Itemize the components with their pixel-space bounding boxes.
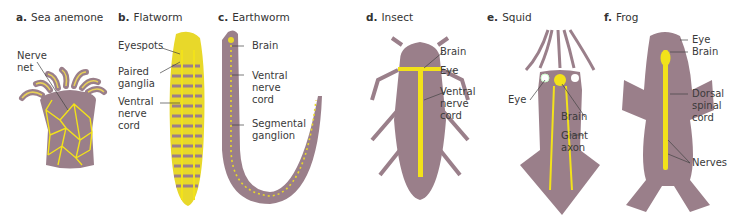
panel-letter: e.	[487, 11, 498, 23]
panel-name: Squid	[502, 11, 532, 23]
panel-name: Flatworm	[134, 11, 183, 23]
panel-letter: d.	[366, 11, 378, 23]
label-nerve-net: Nerve net	[17, 50, 47, 74]
label-nerves: Nerves	[692, 157, 727, 169]
panel-letter: c.	[218, 11, 228, 23]
label-paired-ganglia: Paired ganglia	[118, 66, 155, 90]
label-eye-insect: Eye	[440, 65, 458, 77]
panel-letter: f.	[604, 11, 612, 23]
panel-title-e: e.Squid	[487, 11, 532, 23]
panel-name: Frog	[616, 11, 638, 23]
panel-title-c: c.Earthworm	[218, 11, 290, 23]
label-segmental-ganglion: Segmental ganglion	[252, 118, 306, 142]
label-dorsal-spinal-cord: Dorsal spinal cord	[692, 88, 724, 124]
panel-title-d: d.Insect	[366, 11, 413, 23]
panel-letter: b.	[118, 11, 130, 23]
squid-drawing	[520, 30, 600, 215]
label-giant-axon: Giant axon	[561, 130, 588, 154]
panel-letter: a.	[16, 11, 27, 23]
label-brain-frog: Brain	[692, 46, 718, 58]
panel-title-a: a.Sea anemone	[16, 11, 103, 23]
panel-name: Earthworm	[232, 11, 290, 23]
label-ventral-nerve-cord-earthworm: Ventral nerve cord	[252, 70, 288, 106]
label-brain-squid: Brain	[561, 111, 587, 123]
nervous-systems-illustration	[0, 0, 736, 221]
flatworm-drawing	[170, 32, 205, 206]
label-eye-frog: Eye	[692, 34, 710, 46]
label-eye-squid: Eye	[508, 94, 526, 106]
label-ventral-nerve-cord-insect: Ventral nerve cord	[440, 86, 476, 122]
panel-title-b: b.Flatworm	[118, 11, 182, 23]
label-eyespots: Eyespots	[118, 40, 163, 52]
label-ventral-nerve-cord-flatworm: Ventral nerve cord	[118, 96, 154, 132]
panel-name: Insect	[382, 11, 414, 23]
label-brain-insect: Brain	[440, 46, 466, 58]
label-brain-earthworm: Brain	[252, 40, 278, 52]
panel-name: Sea anemone	[31, 11, 103, 23]
panel-title-f: f.Frog	[604, 11, 638, 23]
sea-anemone-drawing	[22, 70, 104, 169]
